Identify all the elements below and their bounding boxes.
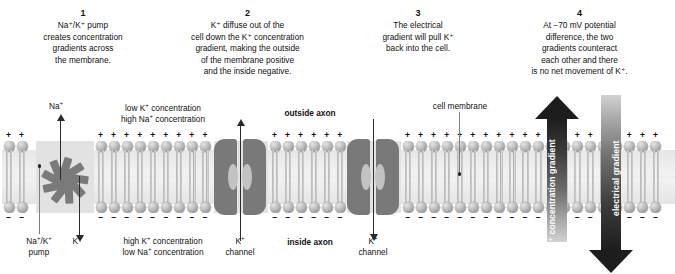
lipid-tail	[337, 150, 339, 204]
lipid-tail	[150, 150, 152, 204]
lipid-tail	[124, 150, 126, 204]
lipid-tail	[128, 150, 130, 204]
negative-charge: –	[520, 213, 529, 222]
lipid-tail	[19, 150, 21, 204]
positive-charge: +	[429, 131, 438, 140]
step-number-1: 1	[8, 8, 158, 19]
lipid-tail	[431, 150, 433, 204]
arrow-shaft	[79, 176, 80, 236]
lipid-head-outer	[494, 141, 505, 152]
outside-axon-label: outside axon	[255, 108, 365, 119]
lipid-tail	[435, 150, 437, 204]
negative-charge: –	[200, 213, 209, 222]
positive-charge: +	[148, 131, 157, 140]
lipid-tail	[522, 150, 524, 204]
positive-charge: +	[468, 131, 477, 140]
lipid-tail	[444, 150, 446, 204]
step-caption-3: 3 The electrical gradient will pull K⁺ b…	[348, 8, 488, 55]
phospholipid	[441, 141, 454, 213]
phospholipid	[186, 141, 199, 213]
positive-charge: +	[416, 131, 425, 140]
positive-charge: +	[4, 131, 13, 140]
negative-charge: –	[416, 213, 425, 222]
electrical-gradient-arrow: electrical gradient	[589, 95, 633, 273]
positive-charge: +	[283, 131, 292, 140]
phospholipid	[402, 141, 415, 213]
arrow-shaft	[60, 120, 61, 180]
cell-membrane-leader-line	[459, 112, 460, 174]
step-caption-1: 1 Na⁺/K⁺ pump creates concentration grad…	[8, 8, 158, 66]
phospholipid	[269, 141, 282, 213]
negative-charge: –	[148, 213, 157, 222]
lipid-tail	[657, 150, 659, 204]
lipid-tail	[324, 150, 326, 204]
lipid-tail	[6, 150, 8, 204]
negative-charge: –	[494, 213, 503, 222]
phospholipid	[454, 141, 467, 213]
positive-charge: +	[200, 131, 209, 140]
lipid-head-outer	[637, 141, 648, 152]
lipid-tail	[272, 150, 274, 204]
k-influx-arrow	[75, 176, 84, 242]
lipid-tail	[474, 150, 476, 204]
k-channel-2-label: K+channel	[345, 236, 401, 258]
lipid-tail	[513, 150, 515, 204]
phospholipid	[649, 141, 662, 213]
lipid-head-outer	[416, 141, 427, 152]
lipid-tail	[167, 150, 169, 204]
lipid-head-outer	[520, 141, 531, 152]
channel-lobe-right	[376, 139, 399, 215]
electrical-gradient-label: electrical gradient	[601, 113, 621, 243]
k-concentration-gradient-arrow: K⁺ concentration gradient	[535, 96, 579, 242]
lipid-tail	[644, 150, 646, 204]
negative-charge: –	[322, 213, 331, 222]
lipid-head-outer	[109, 141, 120, 152]
negative-charge: –	[403, 213, 412, 222]
positive-charge: +	[507, 131, 516, 140]
negative-charge: –	[122, 213, 131, 222]
bilayer-segment	[2, 141, 36, 213]
positive-charge: +	[96, 131, 105, 140]
lipid-tail	[527, 150, 529, 204]
negative-charge: –	[109, 213, 118, 222]
positive-charge: +	[270, 131, 279, 140]
positive-charge: +	[296, 131, 305, 140]
k-efflux-channel-arrow	[236, 119, 245, 241]
negative-charge: –	[296, 213, 305, 222]
lipid-head-outer	[442, 141, 453, 152]
lipid-head-outer	[96, 141, 107, 152]
phospholipid	[467, 141, 480, 213]
phospholipid	[147, 141, 160, 213]
lipid-tail	[302, 150, 304, 204]
lipid-head-outer	[650, 141, 661, 152]
positive-charge: +	[520, 131, 529, 140]
lipid-tail	[206, 150, 208, 204]
lipid-tail	[163, 150, 165, 204]
phospholipid	[282, 141, 295, 213]
negative-charge: –	[4, 213, 13, 222]
negative-charge: –	[309, 213, 318, 222]
k-influx-channel-arrow	[369, 119, 378, 241]
phospholipid	[16, 141, 29, 213]
negative-charge: –	[335, 213, 344, 222]
step-number-4: 4	[492, 8, 667, 19]
phospholipid	[134, 141, 147, 213]
lipid-head-outer	[161, 141, 172, 152]
lipid-head-outer	[17, 141, 28, 152]
lipid-tail	[137, 150, 139, 204]
lipid-head-outer	[455, 141, 466, 152]
arrow-shaft	[240, 125, 241, 241]
lipid-tail	[509, 150, 511, 204]
lipid-head-outer	[507, 141, 518, 152]
phospholipid	[3, 141, 16, 213]
lipid-tail	[341, 150, 343, 204]
cell-membrane-label: cell membrane	[416, 101, 504, 112]
phospholipid	[321, 141, 334, 213]
k-concentration-gradient-label: K⁺ concentration gradient	[547, 124, 567, 264]
lipid-tail	[328, 150, 330, 204]
lipid-head-outer	[122, 141, 133, 152]
lipid-tail	[285, 150, 287, 204]
phospholipid	[95, 141, 108, 213]
step-caption-2: 2 K⁺ diffuse out of the cell down the K⁺…	[155, 8, 340, 77]
lipid-tail-zone	[268, 150, 347, 204]
